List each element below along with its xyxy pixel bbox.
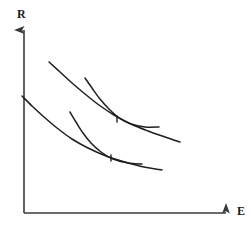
curve-lower-long (22, 96, 162, 170)
tangency-marks-group (111, 116, 117, 161)
x-axis-label: E (237, 205, 245, 217)
figure-container: R E (0, 0, 251, 231)
curve-upper-long (49, 62, 180, 142)
y-axis-label: R (17, 8, 26, 20)
curve-lower-short (70, 112, 142, 164)
diagram-canvas (0, 0, 251, 231)
curves-group (22, 62, 180, 170)
